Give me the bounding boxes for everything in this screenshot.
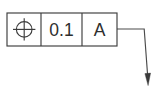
tolerance-value-text: 0.1 [49, 20, 73, 40]
arrowhead-down-icon [145, 73, 151, 86]
drawing-canvas: 0.1 A [0, 0, 163, 94]
gdt-drawing: 0.1 A [0, 0, 163, 94]
leader-line [117, 29, 151, 86]
leader-path [117, 29, 148, 75]
primary-datum-text: A [94, 20, 106, 40]
